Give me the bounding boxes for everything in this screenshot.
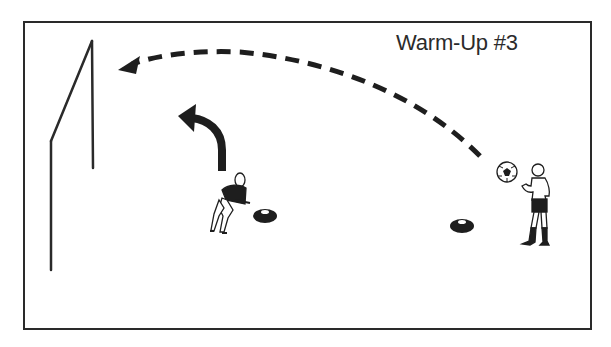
goal-icon — [51, 41, 93, 270]
keeper-movement-arrow-icon — [178, 104, 222, 171]
cone-icon — [253, 209, 277, 223]
soccer-ball-icon — [497, 162, 517, 182]
pass-path-arrow-icon — [118, 52, 480, 156]
cone-icon — [450, 219, 474, 233]
drill-diagram — [0, 0, 611, 347]
goalkeeper-player-icon — [210, 173, 250, 233]
server-player-icon — [522, 164, 549, 245]
